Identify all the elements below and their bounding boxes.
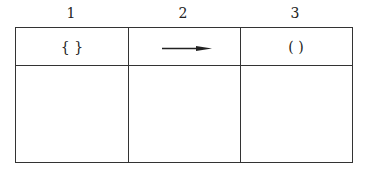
header-cell-3-parentheses: ( ) xyxy=(240,36,352,58)
answer-cell-2[interactable] xyxy=(129,66,240,162)
column-number-3: 3 xyxy=(285,5,305,21)
arrow-right-icon xyxy=(162,46,212,51)
answer-cell-1[interactable] xyxy=(16,66,128,162)
answer-table: { } ( ) xyxy=(15,27,353,163)
column-number-1: 1 xyxy=(61,5,81,21)
header-cell-1-braces: { } xyxy=(16,36,128,58)
answer-cell-3[interactable] xyxy=(241,66,352,162)
column-number-2: 2 xyxy=(173,5,193,21)
